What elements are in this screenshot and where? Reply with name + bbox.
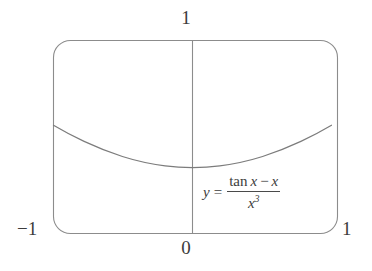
equation-numerator-minus: −: [257, 173, 271, 189]
equation-denominator: x3: [246, 192, 262, 211]
equation-numerator-x2: x: [272, 173, 279, 189]
axis-label-left: −1: [17, 219, 37, 238]
equation-lhs: y: [203, 184, 213, 201]
equation-denominator-exponent: 3: [255, 193, 260, 204]
equation-denominator-base: x: [248, 195, 255, 211]
equation-numerator: tanx−x: [227, 174, 280, 191]
equation-equals-sign: =: [213, 184, 227, 201]
axis-label-right: 1: [342, 219, 352, 238]
equation-numerator-x1: x: [247, 173, 257, 189]
equation-annotation: y = tanx−x x3: [203, 174, 280, 211]
equation-fraction: tanx−x x3: [227, 174, 280, 211]
axis-label-bottom: 0: [0, 238, 372, 257]
graph-plot: [0, 0, 372, 271]
equation-tan-operator: tan: [229, 173, 247, 189]
axis-label-top: 1: [0, 8, 372, 27]
viewing-window-frame: [54, 41, 338, 234]
figure-canvas: 1 0 −1 1 y = tanx−x x3: [0, 0, 372, 271]
